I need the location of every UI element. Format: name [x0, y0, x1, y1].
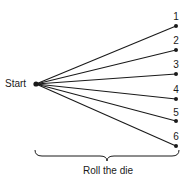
curly-brace — [35, 150, 179, 161]
outcome-node-1 — [174, 24, 178, 28]
outcome-label-1: 1 — [171, 12, 181, 22]
start-node — [33, 81, 38, 86]
outcome-node-4 — [174, 97, 178, 101]
branch-lines — [36, 26, 176, 146]
outcome-label-6: 6 — [171, 132, 181, 142]
outcome-label-2: 2 — [171, 36, 181, 46]
tree-diagram — [0, 0, 191, 185]
start-label: Start — [5, 79, 26, 89]
outcome-label-3: 3 — [171, 60, 181, 70]
outcome-node-3 — [174, 72, 178, 76]
outcome-node-6 — [174, 144, 178, 148]
branch-4 — [36, 84, 176, 99]
outcome-label-4: 4 — [171, 85, 181, 95]
brace-caption: Roll the die — [60, 166, 156, 176]
outcome-label-5: 5 — [171, 108, 181, 118]
outcome-node-5 — [174, 119, 178, 123]
outcome-node-2 — [174, 48, 178, 52]
